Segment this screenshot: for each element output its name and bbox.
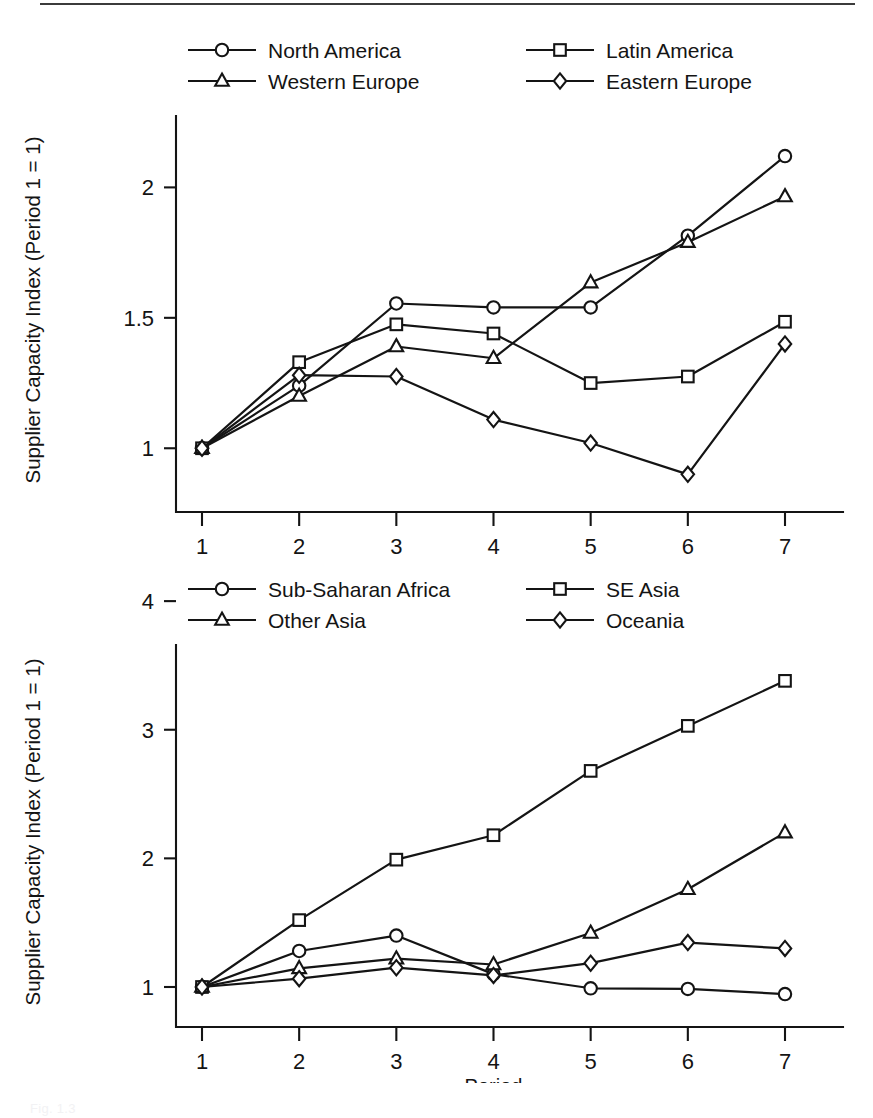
data-point — [682, 720, 694, 732]
x-tick-label: 5 — [585, 534, 597, 559]
triangle-legend-marker — [215, 74, 229, 86]
legend-label: Oceania — [606, 609, 685, 632]
data-point — [779, 941, 791, 956]
y-axis-title: Supplier Capacity Index (Period 1 = 1) — [21, 659, 44, 1006]
x-tick-label: 7 — [779, 1049, 791, 1074]
y-tick-label: 3 — [142, 718, 154, 743]
x-tick-label: 5 — [585, 1049, 597, 1074]
data-point — [682, 983, 694, 995]
data-point — [584, 435, 596, 450]
diamond-legend-marker — [554, 612, 566, 627]
x-tick-label: 3 — [390, 1049, 402, 1074]
legend-label: Western Europe — [268, 70, 419, 93]
diamond-legend-marker — [554, 73, 566, 88]
data-point — [778, 825, 792, 837]
triangle-legend-marker — [215, 613, 229, 625]
data-point — [390, 297, 402, 309]
data-point — [390, 339, 404, 351]
data-point — [391, 854, 403, 866]
series-line-latin-america — [202, 322, 785, 449]
y-tick-label: 1.5 — [123, 306, 154, 331]
y-tick-label: 1 — [142, 436, 154, 461]
x-axis-title: Period — [465, 1075, 523, 1083]
x-tick-label: 6 — [682, 534, 694, 559]
data-point — [293, 945, 305, 957]
x-tick-label: 2 — [293, 1049, 305, 1074]
legend-item-latin-america[interactable]: Latin America — [526, 39, 734, 62]
x-tick-label: 1 — [196, 1049, 208, 1074]
y-tick-label: 1 — [142, 975, 154, 1000]
x-tick-label: 2 — [293, 534, 305, 559]
legend-label: North America — [268, 39, 401, 62]
data-point — [584, 956, 596, 971]
data-point — [779, 675, 791, 687]
legend-label: Other Asia — [268, 609, 366, 632]
legend-item-north-america[interactable]: North America — [188, 39, 401, 62]
data-point — [487, 301, 499, 313]
x-tick-label: 4 — [487, 534, 499, 559]
legend-label: Latin America — [606, 39, 734, 62]
figure-page: North AmericaLatin AmericaWestern Europe… — [0, 0, 873, 1118]
data-point — [778, 189, 792, 201]
chart-panel-bottom: Sub-Saharan AfricaSE AsiaOther AsiaOcean… — [0, 563, 873, 1083]
data-point — [390, 929, 402, 941]
bottom-chart-svg: Sub-Saharan AfricaSE AsiaOther AsiaOcean… — [0, 563, 873, 1083]
x-tick-label: 4 — [487, 1049, 499, 1074]
axis-frame — [176, 645, 843, 1027]
circle-legend-marker — [216, 44, 228, 56]
legend-item-eastern-europe[interactable]: Eastern Europe — [526, 70, 752, 93]
series-se-asia — [196, 675, 791, 993]
legend-item-se-asia[interactable]: SE Asia — [526, 578, 680, 601]
data-point — [488, 829, 500, 841]
x-tick-label: 3 — [390, 534, 402, 559]
y-tick-label: 4 — [142, 589, 154, 614]
data-point — [681, 882, 695, 894]
data-point — [584, 982, 596, 994]
top-chart-svg: North AmericaLatin AmericaWestern Europe… — [0, 18, 873, 563]
legend-item-sub-saharan-africa[interactable]: Sub-Saharan Africa — [188, 578, 450, 601]
circle-legend-marker — [216, 583, 228, 595]
x-tick-label: 1 — [196, 534, 208, 559]
legend-label: Sub-Saharan Africa — [268, 578, 450, 601]
legend-item-other-asia[interactable]: Other Asia — [188, 609, 366, 632]
x-tick-label: 6 — [682, 1049, 694, 1074]
data-point — [779, 316, 791, 328]
legend: Sub-Saharan AfricaSE AsiaOther AsiaOcean… — [188, 578, 685, 632]
series-north-america — [196, 150, 791, 455]
legend: North AmericaLatin AmericaWestern Europe… — [188, 39, 752, 93]
data-point — [779, 988, 791, 1000]
page-top-rule — [40, 3, 855, 5]
data-point — [682, 935, 694, 950]
data-point — [585, 377, 597, 389]
legend-item-oceania[interactable]: Oceania — [526, 609, 685, 632]
axes: 11.521234567PeriodSupplier Capacity Inde… — [21, 116, 843, 563]
data-point — [682, 371, 694, 383]
data-point — [293, 914, 305, 926]
chart-panel-top: North AmericaLatin AmericaWestern Europe… — [0, 18, 873, 563]
square-legend-marker — [554, 583, 566, 595]
data-point — [584, 301, 596, 313]
square-legend-marker — [554, 44, 566, 56]
data-point — [391, 319, 403, 331]
data-point — [488, 328, 500, 340]
axes: 12341234567PeriodSupplier Capacity Index… — [21, 589, 843, 1083]
y-tick-label: 2 — [142, 175, 154, 200]
y-tick-label: 2 — [142, 846, 154, 871]
y-axis-title: Supplier Capacity Index (Period 1 = 1) — [21, 137, 44, 484]
axis-frame — [176, 116, 843, 512]
data-point — [585, 765, 597, 777]
legend-item-western-europe[interactable]: Western Europe — [188, 70, 419, 93]
data-point — [390, 369, 402, 384]
data-point — [487, 412, 499, 427]
x-tick-label: 7 — [779, 534, 791, 559]
data-point — [779, 150, 791, 162]
legend-label: Eastern Europe — [606, 70, 752, 93]
figure-caption: Fig. 1.3 — [30, 1101, 76, 1116]
legend-label: SE Asia — [606, 578, 680, 601]
